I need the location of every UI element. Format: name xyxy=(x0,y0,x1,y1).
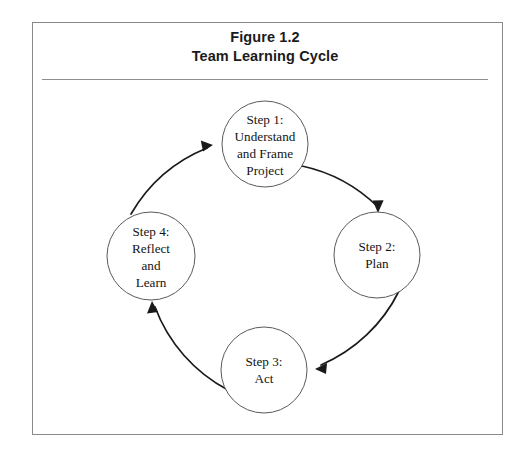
node-step-4-line-1: Step 4: xyxy=(133,224,170,239)
cycle-diagram: Step 1: Understand and Frame Project Ste… xyxy=(0,0,529,458)
node-step-1-line-3: and Frame xyxy=(237,146,293,161)
node-step-1-line-1: Step 1: xyxy=(247,112,284,127)
node-step-2-line-1: Step 2: xyxy=(359,239,396,254)
node-step-1-line-4: Project xyxy=(246,163,284,178)
node-step-3-circle[interactable] xyxy=(221,327,307,413)
arc-step2-step3 xyxy=(321,291,399,365)
node-step-4-line-3: and xyxy=(141,258,160,273)
figure-root: Figure 1.2 Team Learning Cycle xyxy=(0,0,529,458)
arc-step1-step2 xyxy=(302,166,378,207)
arc-step4-step1 xyxy=(131,148,207,214)
arc-step3-step4 xyxy=(155,307,228,390)
node-step-4-line-2: Reflect xyxy=(132,241,170,256)
node-step-3-line-1: Step 3: xyxy=(246,354,283,369)
node-step-3[interactable]: Step 3: Act xyxy=(221,327,307,413)
node-step-2-line-2: Plan xyxy=(365,256,389,271)
node-step-4-line-4: Learn xyxy=(136,275,167,290)
node-step-2[interactable]: Step 2: Plan xyxy=(334,212,420,298)
node-step-1-line-2: Understand xyxy=(235,129,296,144)
arrow-step1-to-step2 xyxy=(302,166,384,213)
arrow-step3-to-step4 xyxy=(147,301,228,390)
arrow-step4-to-step1 xyxy=(131,141,213,214)
node-step-1[interactable]: Step 1: Understand and Frame Project xyxy=(222,101,308,187)
arrowhead-into-step4 xyxy=(147,301,158,314)
node-step-2-circle[interactable] xyxy=(334,212,420,298)
arrowhead-into-step2 xyxy=(373,200,384,213)
node-step-4[interactable]: Step 4: Reflect and Learn xyxy=(107,212,195,300)
arrow-step2-to-step3 xyxy=(315,291,399,374)
node-step-3-line-2: Act xyxy=(254,371,273,386)
